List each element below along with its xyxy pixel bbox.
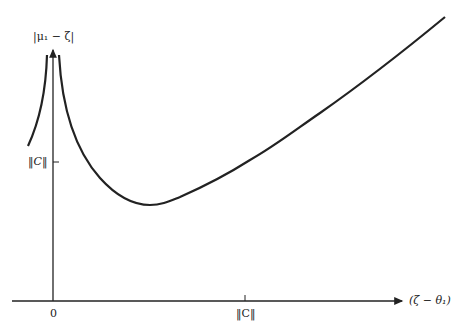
- y-axis-label: |μ₁ − ζ|: [33, 30, 74, 43]
- curve-left-branch: [28, 55, 47, 146]
- diagram-canvas: [0, 0, 462, 330]
- x-tick-label-0: 0: [50, 307, 57, 320]
- y-tick-label-c: ‖C‖: [28, 155, 47, 168]
- x-axis-label: (ζ − θ₁): [409, 294, 451, 307]
- curve-right-branch: [59, 17, 445, 205]
- x-tick-label-c: ‖C‖: [236, 307, 255, 320]
